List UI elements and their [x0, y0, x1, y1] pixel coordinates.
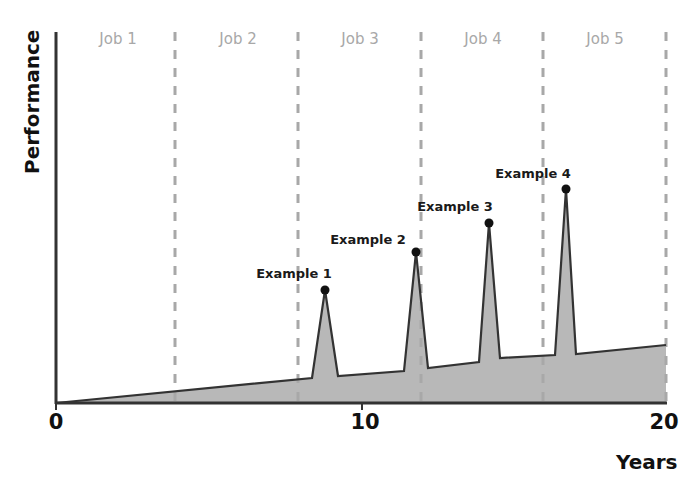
- job-label-2: Job 2: [219, 30, 256, 48]
- job-label-4: Job 4: [464, 30, 501, 48]
- annotation-example-1: Example 1: [256, 266, 332, 281]
- job-label-5: Job 5: [586, 30, 623, 48]
- annotation-example-3: Example 3: [417, 199, 493, 214]
- peak-marker-example-3: [485, 219, 494, 228]
- annotation-example-2: Example 2: [330, 232, 406, 247]
- career-performance-chart: Job 1 Job 2 Job 3 Job 4 Job 5 Example 1 …: [0, 0, 696, 491]
- performance-area: [56, 189, 666, 403]
- annotation-example-4: Example 4: [495, 166, 571, 181]
- x-axis-title: Years: [616, 450, 677, 474]
- job-label-3: Job 3: [341, 30, 378, 48]
- job-label-1: Job 1: [99, 30, 136, 48]
- y-axis-title: Performance: [20, 34, 44, 174]
- peak-marker-example-1: [321, 286, 330, 295]
- x-tick-label-0: 0: [49, 410, 64, 434]
- x-tick-label-10: 10: [350, 410, 379, 434]
- peak-marker-example-4: [562, 185, 571, 194]
- x-tick-label-20: 20: [649, 410, 678, 434]
- peak-marker-example-2: [412, 248, 421, 257]
